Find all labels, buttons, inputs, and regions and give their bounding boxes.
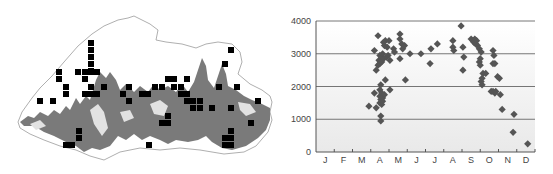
observation-marker [126,98,132,104]
observation-marker [228,135,234,141]
observation-marker [63,84,69,90]
observation-marker [101,84,107,90]
observation-marker [69,142,75,148]
observation-marker [82,91,88,97]
observation-marker [37,98,43,104]
observation-marker [50,98,56,104]
observation-marker [197,105,203,111]
x-tick-label: S [468,155,474,165]
observation-marker [228,47,234,53]
y-tick-label: 4000 [291,16,311,26]
observation-marker [190,105,196,111]
elevation-month-chart: 01000200030004000 JFMAMJJASOND [275,0,553,174]
observation-marker [234,84,240,90]
observation-marker [76,135,82,141]
observation-marker [152,84,158,90]
observation-marker [248,120,254,126]
observation-marker [178,91,184,97]
observation-marker [222,61,228,67]
x-tick-label: F [341,155,347,165]
x-tick-label: O [486,155,493,165]
observation-marker [228,142,234,148]
observation-marker [126,84,132,90]
observation-marker [88,69,94,75]
y-tick-label: 0 [306,147,311,157]
observation-marker [159,120,165,126]
x-tick-label: N [504,155,511,165]
x-tick-label: A [377,155,383,165]
y-tick-labels: 01000200030004000 [291,16,311,157]
y-tick-label: 1000 [291,114,311,124]
x-tick-label: M [358,155,366,165]
observation-marker [88,84,94,90]
observation-marker [88,40,94,46]
x-tick-label: D [523,155,530,165]
observation-marker [165,120,171,126]
observation-marker [88,54,94,60]
observation-marker [88,47,94,53]
observation-marker [209,105,215,111]
observation-marker [75,69,81,75]
observation-marker [190,98,196,104]
x-tick-label: J [414,155,419,165]
observation-marker [171,84,177,90]
observation-marker [56,69,62,75]
y-tick-label: 3000 [291,49,311,59]
observation-marker [216,84,222,90]
x-tick-label: M [394,155,402,165]
observation-marker [184,98,190,104]
observation-marker [255,98,261,104]
observation-marker [56,76,62,82]
observation-marker [94,91,100,97]
observation-marker [159,84,165,90]
observation-marker [197,98,203,104]
observation-marker [222,135,228,141]
observation-marker [178,84,184,90]
observation-marker [76,128,82,134]
observation-marker [146,142,152,148]
observation-marker [94,69,100,75]
distribution-map [0,0,275,174]
observation-marker [184,76,190,82]
observation-marker [82,76,88,82]
observation-marker [88,91,94,97]
observation-marker [82,69,88,75]
observation-marker [228,105,234,111]
observation-marker [165,113,171,119]
x-tick-label: A [450,155,456,165]
observation-marker [228,128,234,134]
observation-marker [120,91,126,97]
observation-marker [139,91,145,97]
observation-marker [165,76,171,82]
observation-marker [184,91,190,97]
observation-marker [222,142,228,148]
observation-marker [88,61,94,67]
observation-marker [63,91,69,97]
x-tick-label: J [432,155,437,165]
observation-marker [171,76,177,82]
y-tick-label: 2000 [291,82,311,92]
x-tick-label: J [323,155,328,165]
observation-marker [63,142,69,148]
observation-marker [145,91,151,97]
